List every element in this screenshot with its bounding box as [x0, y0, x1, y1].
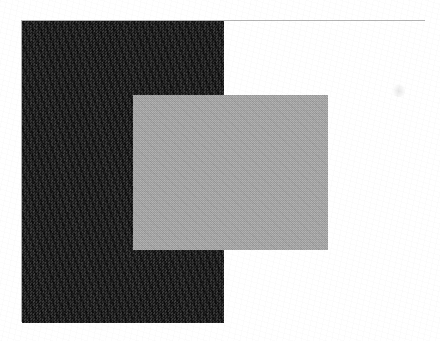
plate-border	[21, 20, 425, 322]
figure-canvas: Simultaneous contrast figure: a single u…	[0, 0, 440, 341]
gray-test-square	[133, 95, 328, 250]
